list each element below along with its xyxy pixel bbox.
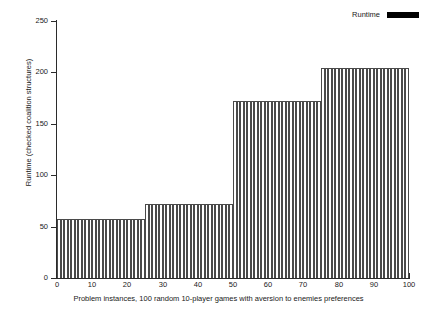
x-axis-tick-label: 50 <box>218 281 248 289</box>
x-axis-tick-label: 60 <box>253 281 283 289</box>
x-axis-tick-label: 80 <box>324 281 354 289</box>
x-axis-tick-label: 0 <box>42 281 72 289</box>
legend-item-runtime-swatch <box>387 12 419 18</box>
x-axis-title: Problem instances, 100 random 10-player … <box>0 294 437 303</box>
y-axis-tick-label: 0 <box>0 274 48 282</box>
x-axis-tick-label: 70 <box>288 281 318 289</box>
legend-item-runtime-label: Runtime <box>352 11 380 19</box>
x-axis-tick-label: 100 <box>394 281 424 289</box>
x-axis-tick <box>409 273 410 279</box>
chart-legend: Runtime <box>352 11 419 19</box>
x-axis-tick-label: 30 <box>148 281 178 289</box>
chart-figure: Runtime 050100150200250 0102030405060708… <box>0 0 437 314</box>
x-axis-tick-label: 10 <box>77 281 107 289</box>
bar <box>405 68 409 278</box>
x-axis-tick-label: 40 <box>183 281 213 289</box>
x-axis-tick-label: 20 <box>112 281 142 289</box>
plot-area <box>57 21 409 278</box>
x-axis-tick-label: 90 <box>359 281 389 289</box>
y-axis-title: Runtime (checked coalition structures) <box>24 13 33 233</box>
